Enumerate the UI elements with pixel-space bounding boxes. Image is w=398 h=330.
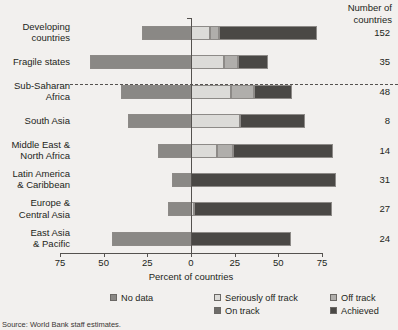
x-axis-tick-label-1: 50 bbox=[89, 257, 119, 268]
bar-segment-seriously-off-track bbox=[191, 55, 224, 69]
stacked-bar bbox=[0, 18, 398, 47]
chart-row: Developingcountries152 bbox=[0, 18, 398, 47]
legend-row-bottom: On track Achieved bbox=[110, 304, 390, 317]
legend-label-off-track: Off track bbox=[341, 293, 376, 303]
bar-segment-seriously-off-track bbox=[191, 114, 240, 128]
bar-segment-achieved bbox=[219, 26, 317, 40]
bar-segment-seriously-off-track bbox=[191, 26, 210, 40]
stacked-bar bbox=[0, 106, 398, 135]
zero-axis-line bbox=[191, 18, 192, 257]
legend-swatch-no-data-icon bbox=[110, 294, 117, 301]
country-count-value: 14 bbox=[340, 145, 390, 156]
legend-label-no-data: No data bbox=[121, 293, 153, 303]
legend-swatch-on-track-icon bbox=[214, 307, 221, 314]
bar-segment-off-track bbox=[217, 144, 233, 158]
mdg-progress-chart: Number of countries Developingcountries1… bbox=[0, 0, 398, 330]
stacked-bar bbox=[0, 47, 398, 76]
x-axis-tick-label-2: 25 bbox=[132, 257, 162, 268]
legend-label-seriously-off-track: Seriously off track bbox=[225, 293, 298, 303]
bar-segment-no-data bbox=[128, 114, 191, 128]
legend-item-achieved[interactable]: Achieved bbox=[330, 306, 379, 316]
bar-segment-achieved bbox=[240, 114, 305, 128]
x-axis-tick-label-6: 75 bbox=[307, 257, 337, 268]
legend-label-achieved: Achieved bbox=[341, 306, 379, 316]
country-count-value: 27 bbox=[340, 203, 390, 214]
bar-segment-no-data bbox=[158, 144, 191, 158]
legend-item-no-data[interactable]: No data bbox=[110, 293, 214, 303]
legend-swatch-off-track-icon bbox=[330, 294, 337, 301]
bar-segment-no-data bbox=[90, 55, 191, 69]
stacked-bar bbox=[0, 194, 398, 223]
chart-row: Sub-SaharanAfrica48 bbox=[0, 77, 398, 106]
x-axis-tick-label-0: 75 bbox=[45, 257, 75, 268]
country-count-value: 48 bbox=[340, 86, 390, 97]
bar-segment-off-track bbox=[224, 55, 238, 69]
legend-row-top: No data Seriously off track Off track bbox=[110, 291, 390, 304]
fragile-states-separator bbox=[60, 84, 398, 85]
bar-segment-no-data bbox=[172, 173, 191, 187]
plot-area: Developingcountries152Fragile states35Su… bbox=[0, 18, 398, 253]
chart-row: South Asia8 bbox=[0, 106, 398, 135]
country-count-value: 8 bbox=[340, 115, 390, 126]
bar-segment-achieved bbox=[191, 232, 291, 246]
chart-row: Fragile states35 bbox=[0, 47, 398, 76]
bar-segment-achieved bbox=[238, 55, 268, 69]
x-axis-tick-label-5: 50 bbox=[263, 257, 293, 268]
legend-label-on-track: On track bbox=[225, 306, 260, 316]
legend-item-seriously-off-track[interactable]: Seriously off track bbox=[214, 293, 330, 303]
bar-segment-no-data bbox=[168, 202, 191, 216]
chart-row: Europe &Central Asia27 bbox=[0, 194, 398, 223]
country-count-value: 24 bbox=[340, 233, 390, 244]
source-note: Source: World Bank staff estimates. bbox=[2, 320, 121, 329]
stacked-bar bbox=[0, 224, 398, 253]
bar-segment-off-track bbox=[210, 26, 219, 40]
bar-segment-off-track bbox=[231, 85, 254, 99]
count-column-header-line1: Number of bbox=[302, 2, 392, 14]
chart-row: East Asia& Pacific24 bbox=[0, 224, 398, 253]
country-count-value: 35 bbox=[340, 56, 390, 67]
stacked-bar bbox=[0, 136, 398, 165]
bar-segment-achieved bbox=[194, 202, 332, 216]
x-axis-tick-label-3: 0 bbox=[176, 257, 206, 268]
legend-item-on-track[interactable]: On track bbox=[214, 306, 330, 316]
stacked-bar bbox=[0, 77, 398, 106]
bar-segment-no-data bbox=[112, 232, 191, 246]
bar-segment-achieved bbox=[233, 144, 333, 158]
chart-row: Middle East &North Africa14 bbox=[0, 136, 398, 165]
stacked-bar bbox=[0, 165, 398, 194]
x-axis-title: Percent of countries bbox=[60, 271, 322, 282]
legend-swatch-achieved-icon bbox=[330, 307, 337, 314]
bar-segment-seriously-off-track bbox=[191, 144, 217, 158]
legend-swatch-seriously-off-track-icon bbox=[214, 294, 221, 301]
x-axis-tick-label-4: 25 bbox=[220, 257, 250, 268]
country-count-value: 152 bbox=[340, 27, 390, 38]
bar-segment-no-data bbox=[142, 26, 191, 40]
bar-segment-seriously-off-track bbox=[191, 85, 231, 99]
legend: No data Seriously off track Off track On… bbox=[110, 291, 390, 317]
legend-item-off-track[interactable]: Off track bbox=[330, 293, 376, 303]
bar-segment-achieved bbox=[254, 85, 292, 99]
chart-row: Latin America& Caribbean31 bbox=[0, 165, 398, 194]
bar-segment-no-data bbox=[121, 85, 191, 99]
zero-axis-top-cap bbox=[187, 18, 192, 19]
bar-segment-achieved bbox=[191, 173, 336, 187]
country-count-value: 31 bbox=[340, 174, 390, 185]
